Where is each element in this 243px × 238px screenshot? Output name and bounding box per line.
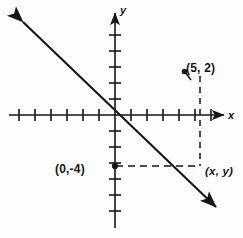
point-marker-0-neg4 <box>112 163 118 169</box>
point-label-5-2: (5, 2) <box>186 62 215 74</box>
x-axis-label: x <box>228 110 234 121</box>
graph-canvas <box>0 0 243 238</box>
y-axis-label: y <box>120 5 126 16</box>
point-label-x-y: (x, y) <box>205 166 233 178</box>
coordinate-plane-figure: y x (5, 2) (0,-4) (x, y) <box>0 0 243 238</box>
point-label-0-neg4: (0,-4) <box>55 163 85 175</box>
y-axis <box>109 13 121 228</box>
